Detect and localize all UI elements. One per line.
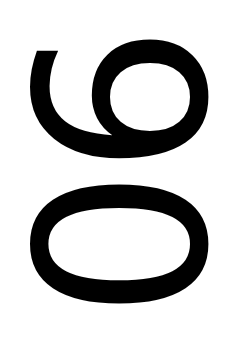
rotated-number-canvas: 90 <box>0 0 228 337</box>
rotated-number-text: 90 <box>0 24 228 312</box>
